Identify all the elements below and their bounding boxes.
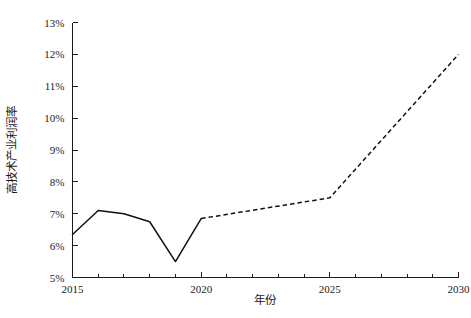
line-chart: 5%6%7%8%9%10%11%12%13% 2015202020252030 … [0,0,471,318]
series-forecast-line [201,54,458,218]
chart-axes [73,23,459,278]
y-tick-label: 8% [50,176,65,188]
y-tick-label: 13% [44,17,64,29]
series-historical-line [73,211,202,262]
chart-container: 5%6%7%8%9%10%11%12%13% 2015202020252030 … [0,0,471,318]
x-axis-title: 年份 [254,293,277,306]
x-tick-label: 2025 [319,283,342,295]
x-tick-label: 2020 [190,283,213,295]
y-tick-label: 7% [50,208,65,220]
y-tick-label: 6% [50,240,65,252]
y-tick-label: 9% [50,144,65,156]
y-tick-label: 10% [44,112,64,124]
y-tick-label: 11% [45,80,65,92]
x-axis-ticks: 2015202020252030 [62,272,471,295]
chart-series [73,54,459,261]
x-tick-label: 2015 [62,283,85,295]
x-tick-label: 2030 [448,283,471,295]
y-tick-label: 12% [44,48,64,60]
y-axis-title: 高技术产业利润率 [5,106,18,194]
